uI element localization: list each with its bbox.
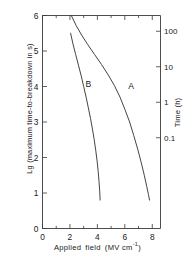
curve-label-A: A bbox=[128, 81, 134, 91]
y-tick-label: 6 bbox=[34, 11, 39, 21]
y-axis-label: Lg (maximum time-to-breakdown in s) bbox=[25, 4, 34, 214]
x-axis-label-units: (MV cm-1) bbox=[105, 243, 141, 252]
curve-A bbox=[71, 16, 149, 201]
x-axis-label-text2: field bbox=[85, 243, 100, 252]
x-tick-label: 2 bbox=[68, 232, 73, 242]
y2-tick-label: 100 bbox=[164, 27, 178, 36]
x-tick-label: 4 bbox=[95, 232, 100, 242]
y-tick-label: 2 bbox=[34, 153, 39, 163]
y2-tick-label: 1 bbox=[164, 98, 169, 107]
curve-B bbox=[71, 33, 101, 200]
y-tick-label: 1 bbox=[34, 188, 39, 198]
tick-labels: 0246801234561001010.1 bbox=[34, 11, 178, 242]
x-tick-label: 0 bbox=[40, 232, 45, 242]
y-tick-label: 0 bbox=[34, 224, 39, 234]
y-tick-label: 5 bbox=[34, 46, 39, 56]
data-curves bbox=[71, 16, 150, 201]
x-tick-label: 8 bbox=[150, 232, 155, 242]
series-labels: AB bbox=[86, 79, 135, 91]
x-axis-label-text: Applied bbox=[54, 243, 81, 252]
x-tick-label: 6 bbox=[122, 232, 127, 242]
figure: 0246801234561001010.1 AB Lg (maximum tim… bbox=[0, 0, 195, 260]
secondary-y-axis-label: Time (h) bbox=[173, 53, 182, 173]
tick-marks bbox=[43, 16, 161, 229]
y-tick-label: 4 bbox=[34, 82, 39, 92]
x-axis-label: Appliedfield(MV cm-1) bbox=[0, 243, 195, 252]
y-tick-label: 3 bbox=[34, 117, 39, 127]
axes bbox=[43, 16, 161, 229]
curve-label-B: B bbox=[86, 79, 92, 89]
